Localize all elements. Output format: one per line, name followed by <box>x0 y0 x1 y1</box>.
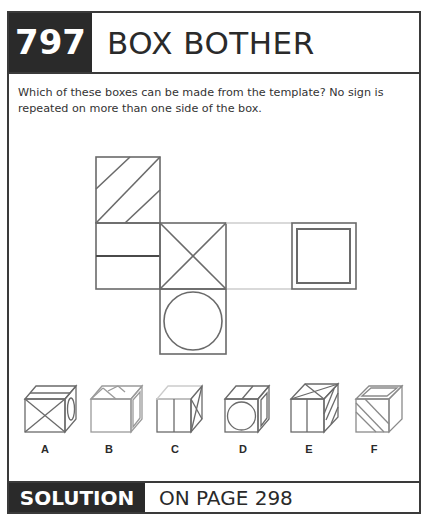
option-label-a[interactable]: A <box>35 443 55 455</box>
option-label-b[interactable]: B <box>99 443 119 455</box>
option-cube-c[interactable] <box>157 386 202 432</box>
option-cube-e[interactable] <box>291 384 338 432</box>
option-cube-f[interactable] <box>356 386 402 432</box>
template-face-diagonal-stripes <box>96 157 160 223</box>
option-label-e[interactable]: E <box>299 443 319 455</box>
option-cube-d[interactable] <box>225 386 269 432</box>
option-label-f[interactable]: F <box>364 443 384 455</box>
answer-options <box>25 384 402 432</box>
template-face-horizontal-line <box>96 223 160 289</box>
option-cube-b[interactable] <box>91 386 142 432</box>
box-template <box>96 157 356 354</box>
option-cube-a[interactable] <box>25 386 76 432</box>
template-face-circle <box>160 289 226 354</box>
option-label-c[interactable]: C <box>165 443 185 455</box>
template-face-double-square <box>292 223 356 289</box>
template-face-blank <box>226 223 292 289</box>
template-face-x-cross <box>160 223 226 289</box>
option-label-d[interactable]: D <box>233 443 253 455</box>
